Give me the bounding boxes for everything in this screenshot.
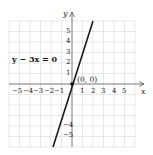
y-tick: 5 — [66, 28, 70, 35]
equation-label: y − 3x = 0 — [12, 54, 57, 64]
y-axis-label: y — [63, 9, 68, 18]
origin-point — [70, 82, 74, 86]
x-tick: −2 — [44, 88, 54, 95]
x-tick: −5 — [12, 88, 22, 95]
x-tick: −1 — [54, 88, 64, 95]
y-tick: 2 — [66, 59, 70, 66]
x-tick: 3 — [101, 88, 105, 95]
y-tick: 4 — [66, 38, 70, 45]
x-tick: −3 — [33, 88, 43, 95]
y-tick: 1 — [66, 70, 70, 77]
x-tick: 2 — [91, 88, 95, 95]
y-tick: −4 — [63, 122, 73, 129]
x-tick: 1 — [80, 88, 84, 95]
y-tick: −5 — [63, 132, 73, 139]
y-tick: 3 — [66, 49, 70, 56]
origin-label: (0, 0) — [77, 76, 97, 84]
x-axis-label: x — [141, 87, 146, 96]
x-tick: −4 — [23, 88, 33, 95]
x-tick: 5 — [122, 88, 126, 95]
x-tick: 4 — [112, 88, 116, 95]
